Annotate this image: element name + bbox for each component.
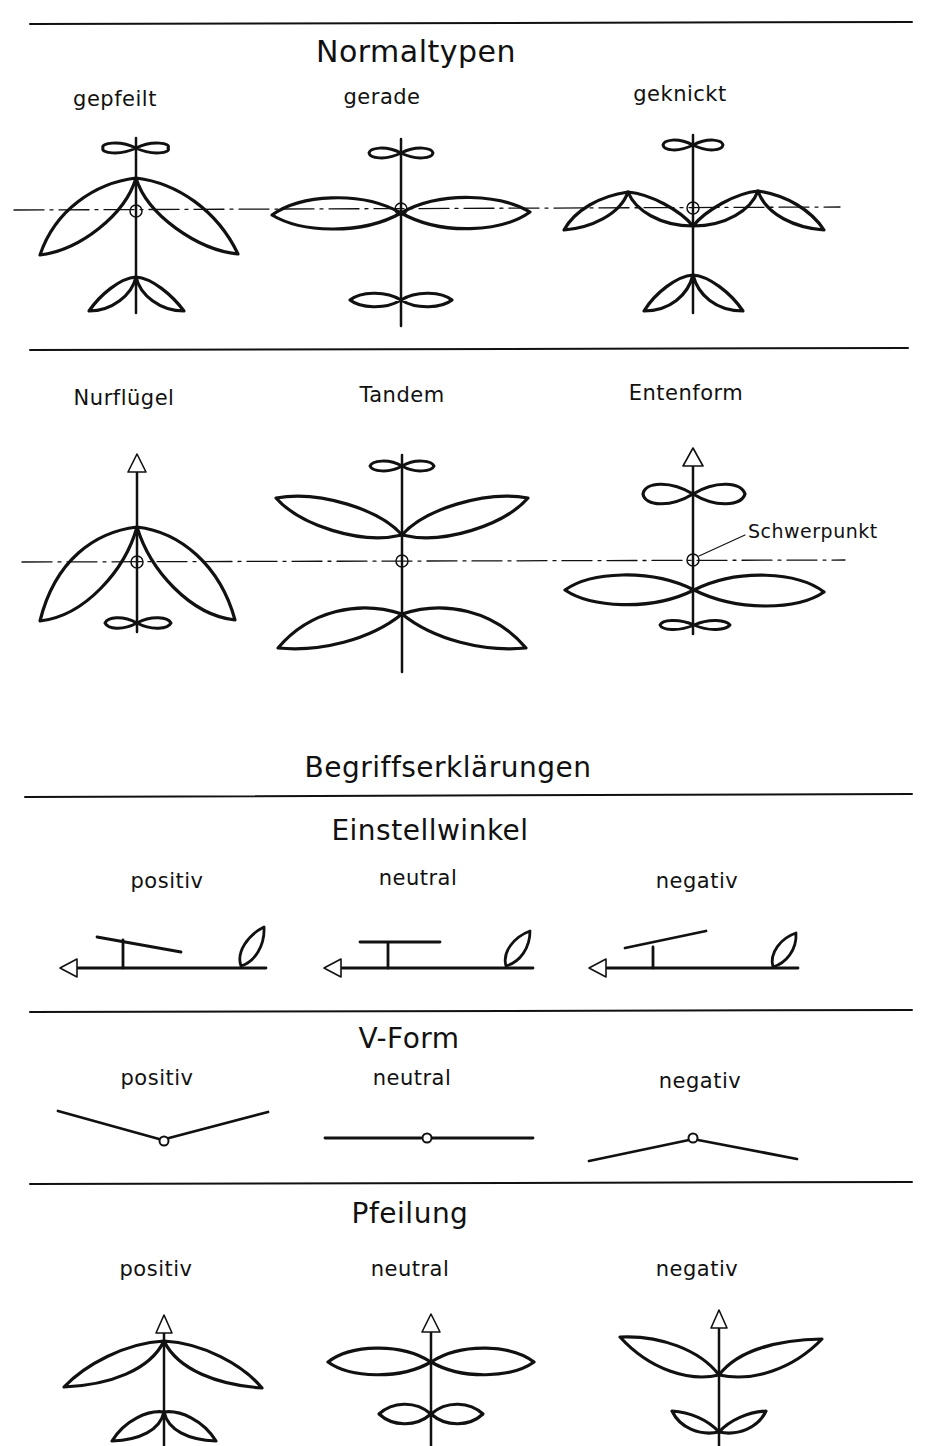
vform-negativ: [589, 1134, 797, 1162]
vform-positiv: [58, 1111, 268, 1146]
section-title-normaltypen: Normaltypen: [316, 34, 516, 69]
label-nurfluegel: Nurflügel: [74, 386, 175, 410]
label-vform-neutral: neutral: [373, 1066, 452, 1090]
label-einstellwinkel-positiv: positiv: [131, 869, 204, 893]
cg-axis: [22, 560, 845, 562]
divider: [30, 348, 908, 350]
section-title-einstellwinkel: Einstellwinkel: [331, 814, 528, 847]
divider: [25, 794, 912, 797]
plane-geknickt: [564, 135, 824, 313]
label-entenform: Entenform: [629, 381, 744, 405]
pfeilung-negativ: [620, 1310, 822, 1446]
plane-gepfeilt: [40, 138, 238, 313]
plane-tandem: [276, 455, 528, 672]
vform-neutral: [325, 1134, 533, 1143]
label-gepfeilt: gepfeilt: [73, 87, 157, 111]
label-geknickt: geknickt: [633, 82, 727, 106]
pfeilung-positiv: [64, 1315, 262, 1446]
einstellwinkel-neutral: [324, 931, 533, 977]
plane-nurfluegel: [40, 454, 235, 632]
section-title-begriffserklaerungen: Begriffserklärungen: [305, 751, 592, 784]
label-einstellwinkel-negativ: negativ: [656, 869, 738, 893]
pfeilung-neutral: [328, 1314, 534, 1446]
label-vform-negativ: negativ: [659, 1069, 741, 1093]
einstellwinkel-positiv: [60, 927, 266, 977]
section-title-pfeilung: Pfeilung: [352, 1197, 469, 1230]
label-pfeilung-negativ: negativ: [656, 1257, 738, 1281]
label-tandem: Tandem: [359, 383, 444, 407]
label-pfeilung-neutral: neutral: [371, 1257, 450, 1281]
label-einstellwinkel-neutral: neutral: [379, 866, 458, 890]
section-title-vform: V-Form: [358, 1022, 459, 1055]
einstellwinkel-negativ: [589, 931, 798, 977]
plane-gerade: [272, 139, 530, 326]
divider: [30, 1182, 912, 1184]
label-pfeilung-positiv: positiv: [120, 1257, 193, 1281]
label-gerade: gerade: [343, 85, 420, 109]
schwerpunkt-leader: [699, 535, 745, 556]
divider: [30, 1010, 912, 1012]
label-schwerpunkt: Schwerpunkt: [748, 520, 878, 542]
divider: [30, 22, 912, 24]
label-vform-positiv: positiv: [121, 1066, 194, 1090]
